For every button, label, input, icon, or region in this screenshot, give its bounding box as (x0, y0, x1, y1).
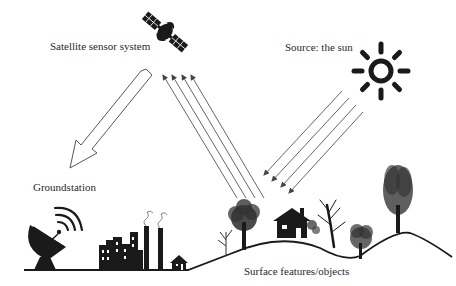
satellite-dish-icon (28, 208, 82, 270)
incident-rays (264, 91, 363, 193)
factory-icon (99, 226, 163, 270)
smoke-icon (144, 211, 167, 228)
bare-tree-icon (218, 230, 232, 256)
transmission-arrow (70, 69, 152, 168)
groundstation-label: Groundstation (33, 182, 96, 193)
shrub-icon (307, 220, 320, 234)
sun-label: Source: the sun (285, 42, 353, 53)
surface-label: Surface features/objects (244, 266, 349, 277)
tree-icon (350, 224, 373, 259)
reflected-rays (163, 75, 264, 198)
satellite-label: Satellite sensor system (50, 41, 150, 52)
house-icon (273, 208, 311, 238)
tall-tree-icon (383, 165, 413, 233)
sun-icon (354, 44, 408, 98)
bare-tree-icon (318, 200, 345, 247)
tree-icon (228, 199, 260, 250)
small-house-icon (170, 255, 188, 270)
ground-line (24, 233, 452, 270)
